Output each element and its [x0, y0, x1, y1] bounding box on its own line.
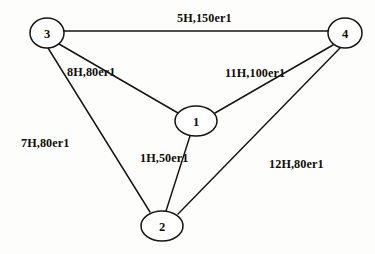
graph-diagram: 3 4 1 2 5H,150er1 8H,80er1 11H,100er1 7H…: [0, 0, 375, 254]
node-3[interactable]: 3: [30, 18, 64, 48]
node-4-label: 4: [342, 27, 349, 41]
edge-label-1-2: 1H,50er1: [140, 152, 189, 164]
edge-label-2-4: 12H,80er1: [269, 158, 324, 170]
node-2-label: 2: [159, 220, 165, 234]
node-3-label: 3: [44, 27, 50, 41]
edge-label-3-4: 5H,150er1: [177, 12, 232, 24]
node-1[interactable]: 1: [175, 106, 217, 136]
node-1-label: 1: [193, 115, 199, 129]
node-2[interactable]: 2: [141, 211, 183, 241]
graph-canvas: 3 4 1 2: [0, 0, 375, 254]
node-group: 3 4 1 2: [30, 18, 362, 241]
edge-label-1-4: 11H,100er1: [225, 67, 285, 79]
edge-label-3-2: 7H,80er1: [21, 137, 70, 149]
node-4[interactable]: 4: [328, 18, 362, 48]
edge-label-3-1: 8H,80er1: [67, 66, 116, 78]
edge-1-2[interactable]: [166, 136, 190, 211]
